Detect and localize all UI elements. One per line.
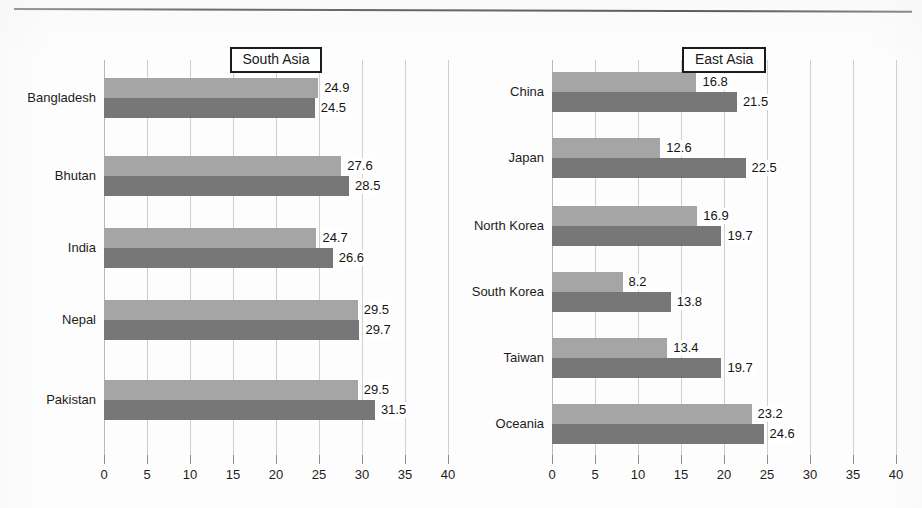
bar-value-label: 13.4 [672,340,699,356]
bar-value-label: 8.2 [628,274,648,290]
category-label: Pakistan [46,392,96,408]
bar-east-asia-2-series-1: 16.9 [552,206,697,226]
bar-south-asia-1-series-1: 27.6 [104,156,341,176]
gridline-15 [681,60,682,455]
bar-group-south-asia-0: Bangladesh24.924.5 [104,78,448,118]
bar-value-label: 29.5 [363,302,390,318]
bar-south-asia-4-series-2: 31.5 [104,400,375,420]
category-label: Taiwan [504,350,544,366]
bar-value-label: 29.7 [364,322,391,338]
x-tick-20 [724,455,725,464]
x-tick-label-0: 0 [548,467,555,483]
gridline-35 [853,60,854,455]
x-tick-label-30: 30 [355,467,369,483]
chart-title-south-asia: South Asia [230,47,323,73]
x-tick-label-25: 25 [312,467,326,483]
bar-value-label: 28.5 [354,178,381,194]
bar-value-label: 24.9 [323,80,350,96]
bar-group-south-asia-2: India24.726.6 [104,228,448,268]
bar-east-asia-3-series-1: 8.2 [552,272,623,292]
x-tick-30 [810,455,811,464]
bar-east-asia-1-series-1: 12.6 [552,138,660,158]
gridline-10 [638,60,639,455]
bar-group-south-asia-3: Nepal29.529.7 [104,300,448,340]
x-tick-35 [853,455,854,464]
bar-value-label: 13.8 [676,294,703,310]
chart-panel-south-asia: South Asia 0510152025303540Bangladesh24.… [0,20,461,490]
x-tick-label-0: 0 [100,467,107,483]
x-tick-label-15: 15 [226,467,240,483]
gridline-40 [448,60,449,455]
x-tick-5 [595,455,596,464]
x-tick-30 [362,455,363,464]
gridline-0 [552,60,553,455]
x-tick-label-10: 10 [183,467,197,483]
x-tick-25 [767,455,768,464]
bar-group-east-asia-0: China16.821.5 [552,72,896,112]
bar-south-asia-0-series-2: 24.5 [104,98,315,118]
bar-south-asia-2-series-2: 26.6 [104,248,333,268]
bar-south-asia-4-series-1: 29.5 [104,380,358,400]
x-tick-label-5: 5 [591,467,598,483]
category-label: China [510,84,544,100]
bar-east-asia-5-series-1: 23.2 [552,404,752,424]
bar-value-label: 26.6 [338,250,365,266]
bar-east-asia-0-series-1: 16.8 [552,72,696,92]
bar-value-label: 24.6 [769,426,796,442]
category-label: Nepal [62,312,96,328]
bar-south-asia-0-series-1: 24.9 [104,78,318,98]
gridline-5 [595,60,596,455]
x-tick-35 [405,455,406,464]
chart-panel-east-asia: East Asia 0510152025303540China16.821.5J… [461,20,922,490]
x-tick-label-5: 5 [143,467,150,483]
header-divider-rule [14,8,912,13]
bar-value-label: 24.5 [320,100,347,116]
x-tick-40 [896,455,897,464]
bar-group-east-asia-1: Japan12.622.5 [552,138,896,178]
bar-group-south-asia-1: Bhutan27.628.5 [104,156,448,196]
bar-value-label: 31.5 [380,402,407,418]
x-tick-5 [147,455,148,464]
bar-value-label: 12.6 [665,140,692,156]
plot-area-south-asia: 0510152025303540Bangladesh24.924.5Bhutan… [104,60,448,455]
category-label: South Korea [472,284,544,300]
bar-east-asia-4-series-2: 19.7 [552,358,721,378]
bar-south-asia-3-series-2: 29.7 [104,320,359,340]
x-tick-10 [190,455,191,464]
category-label: North Korea [474,218,544,234]
category-label: India [68,240,96,256]
x-tick-0 [104,455,105,464]
x-tick-label-15: 15 [674,467,688,483]
bar-value-label: 24.7 [321,230,348,246]
bar-value-label: 21.5 [742,94,769,110]
gridline-25 [767,60,768,455]
bar-value-label: 23.2 [757,406,784,422]
x-tick-label-25: 25 [760,467,774,483]
category-label: Japan [509,150,544,166]
category-label: Bhutan [55,168,96,184]
x-tick-label-40: 40 [441,467,455,483]
bar-value-label: 29.5 [363,382,390,398]
gridline-20 [724,60,725,455]
x-tick-label-30: 30 [803,467,817,483]
bar-group-east-asia-3: South Korea8.213.8 [552,272,896,312]
bar-east-asia-3-series-2: 13.8 [552,292,671,312]
category-label: Bangladesh [27,90,96,106]
bar-value-label: 19.7 [726,360,753,376]
bar-east-asia-5-series-2: 24.6 [552,424,764,444]
x-tick-label-35: 35 [398,467,412,483]
plot-area-east-asia: 0510152025303540China16.821.5Japan12.622… [552,60,896,455]
gridline-30 [810,60,811,455]
x-tick-label-35: 35 [846,467,860,483]
x-tick-label-40: 40 [889,467,903,483]
x-tick-25 [319,455,320,464]
x-tick-label-20: 20 [717,467,731,483]
bar-group-east-asia-4: Taiwan13.419.7 [552,338,896,378]
x-tick-0 [552,455,553,464]
bar-value-label: 16.8 [701,74,728,90]
x-tick-label-20: 20 [269,467,283,483]
bar-east-asia-1-series-2: 22.5 [552,158,746,178]
x-tick-40 [448,455,449,464]
bar-value-label: 22.5 [751,160,778,176]
bar-south-asia-3-series-1: 29.5 [104,300,358,320]
